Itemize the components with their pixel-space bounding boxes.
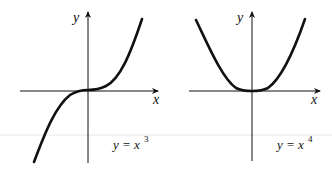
equation-exponent: 4	[308, 134, 313, 144]
y-axis-label: y	[71, 10, 80, 25]
equation-exponent: 3	[144, 134, 149, 144]
y-axis-label: y	[235, 10, 244, 25]
equation-label: y = x	[111, 137, 140, 152]
cubic-graph: y x y = x 3	[20, 10, 160, 163]
quartic-graph: y x y = x 4	[189, 10, 320, 161]
function-graphs: y x y = x 3 y x y = x 4	[0, 0, 332, 171]
quartic-curve	[196, 19, 305, 91]
equation-label: y = x	[275, 137, 304, 152]
x-axis-label: x	[152, 92, 160, 107]
x-axis-label: x	[310, 92, 318, 107]
